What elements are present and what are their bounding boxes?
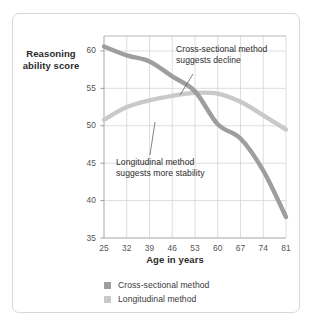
x-axis-tick-label: 46 <box>163 243 181 253</box>
x-axis-tick-label: 67 <box>232 243 250 253</box>
y-axis-title-line-2: ability score <box>18 60 84 72</box>
x-axis-tick-label: 53 <box>186 243 204 253</box>
x-axis-tick-label: 81 <box>277 243 295 253</box>
y-axis-tick-label: 40 <box>78 195 96 205</box>
y-axis-tick-label: 35 <box>78 233 96 243</box>
legend-swatch-icon <box>104 296 111 303</box>
gridlines <box>104 36 286 238</box>
y-axis-tick-label: 45 <box>78 158 96 168</box>
y-axis-title: Reasoning ability score <box>18 48 84 71</box>
y-axis-tick-label: 55 <box>78 83 96 93</box>
leader-line-longitudinal <box>150 122 155 155</box>
x-axis-tick-label: 60 <box>209 243 227 253</box>
legend-item-cross-sectional: Cross-sectional method <box>104 279 274 291</box>
longitudinal-annotation-line-1: Longitudinal method <box>116 157 236 168</box>
y-axis-title-line-1: Reasoning <box>18 48 84 60</box>
x-axis-tick-label: 74 <box>254 243 272 253</box>
longitudinal-annotation-line-2: suggests more stability <box>116 168 236 179</box>
legend-item-longitudinal: Longitudinal method <box>104 293 274 305</box>
y-axis-tick-label: 60 <box>78 45 96 55</box>
legend-swatch-icon <box>104 282 111 289</box>
axis-lines <box>101 36 287 238</box>
x-axis-tick-label: 39 <box>141 243 159 253</box>
legend-label-longitudinal: Longitudinal method <box>118 294 196 304</box>
legend-label-cross-sectional: Cross-sectional method <box>118 280 209 290</box>
y-axis-tick-label: 50 <box>78 120 96 130</box>
cross-sectional-annotation-line-2: suggests decline <box>176 55 300 66</box>
cross-sectional-annotation-line-1: Cross-sectional method <box>176 44 300 55</box>
x-axis-tick-label: 25 <box>95 243 113 253</box>
cross-sectional-annotation: Cross-sectional method suggests decline <box>176 44 300 65</box>
x-axis-tick-label: 32 <box>118 243 136 253</box>
chart-legend: Cross-sectional method Longitudinal meth… <box>104 279 274 307</box>
x-axis-title: Age in years <box>120 254 230 266</box>
longitudinal-annotation: Longitudinal method suggests more stabil… <box>116 157 236 178</box>
chart-figure: Reasoning ability score Age in years 354… <box>0 0 314 327</box>
